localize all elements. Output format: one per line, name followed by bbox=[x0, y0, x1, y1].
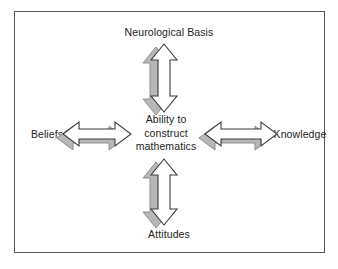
center-text-line-2: construct bbox=[122, 127, 210, 141]
diagram-canvas: Neurological Basis Attitudes Beliefs Kno… bbox=[0, 0, 338, 269]
arrow-left-double bbox=[58, 117, 132, 157]
center-text-line-1: Ability to bbox=[122, 113, 210, 127]
arrow-up-double bbox=[142, 42, 186, 114]
node-label-attitudes: Attitudes bbox=[0, 228, 338, 241]
arrow-down-double bbox=[142, 157, 186, 227]
node-label-neurological-basis: Neurological Basis bbox=[0, 26, 338, 39]
center-node-ability-to-construct-mathematics: Ability to construct mathematics bbox=[122, 113, 210, 154]
center-text-line-3: mathematics bbox=[122, 140, 210, 154]
arrow-right-double bbox=[200, 117, 278, 157]
